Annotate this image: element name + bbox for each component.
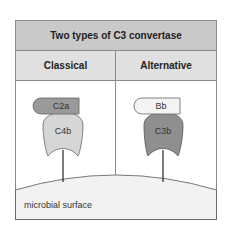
- diagram-graphics: microbial surface C4b C2a C3b Bb: [0, 0, 229, 238]
- microbial-surface: [16, 175, 217, 220]
- surface-label: microbial surface: [24, 200, 92, 210]
- c4b-label: C4b: [55, 126, 72, 136]
- c2a-label: C2a: [53, 101, 70, 111]
- bb-label: Bb: [155, 101, 166, 111]
- c3b-label: C3b: [155, 126, 172, 136]
